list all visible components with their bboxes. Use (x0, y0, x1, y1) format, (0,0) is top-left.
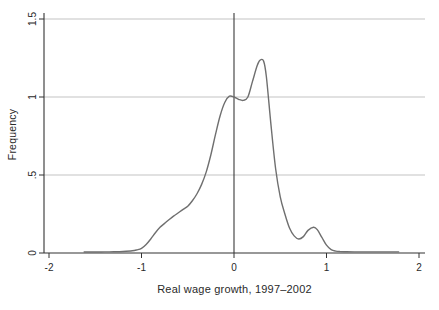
density-curve (84, 59, 399, 252)
kernel-density-chart: 0.511.5-2-1012 Frequency Real wage growt… (0, 0, 439, 310)
x-axis-title: Real wage growth, 1997–2002 (44, 283, 425, 295)
x-tick-label: 1 (324, 262, 330, 273)
x-tick-label: -2 (45, 262, 54, 273)
chart-canvas: 0.511.5-2-1012 (0, 0, 439, 310)
y-tick-label: 0 (27, 250, 38, 256)
y-tick-label: .5 (27, 170, 38, 179)
y-axis-title: Frequency (6, 95, 19, 175)
y-tick-label: 1.5 (27, 12, 38, 26)
x-tick-label: 0 (231, 262, 237, 273)
y-tick-label: 1 (27, 94, 38, 100)
x-tick-label: 2 (416, 262, 422, 273)
x-tick-label: -1 (137, 262, 146, 273)
